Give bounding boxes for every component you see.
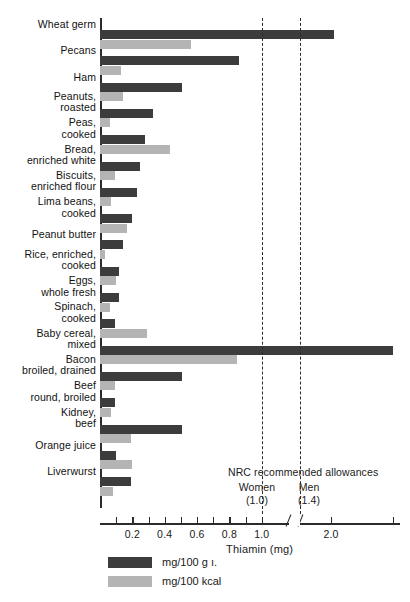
bar [100,303,110,312]
category-label: Bread,enriched white [4,144,96,167]
bar [100,434,131,443]
category-label: Beefround, broiled [4,380,96,403]
bar [100,145,170,154]
category-label: Pecans [4,45,96,57]
bar [100,197,111,206]
category-label: Lima beans,cooked [4,196,96,219]
x-axis-tick-label: 1.0 [254,528,269,540]
bar [100,92,123,101]
legend-label-mg-per-100g: mg/100 g ı. [162,556,217,568]
nrc-reference-line [300,18,301,514]
category-label: Baconbroiled, drained [4,354,96,377]
bar [100,329,147,338]
bar [100,355,237,364]
x-axis-tick-label: 0.2 [125,528,140,540]
category-label: Rice, enriched,cooked [4,249,96,272]
bar [100,162,140,171]
bar [100,118,110,127]
bar [100,40,191,49]
bar [100,171,115,180]
x-axis-tick-label: 0.6 [189,528,204,540]
bar [100,250,105,259]
x-axis-tick [393,517,394,523]
legend-item: mg/100 kcal [108,575,221,587]
category-label: Baby cereal,mixed [4,328,96,351]
thiamin-bar-chart: Wheat germPecansHamPeanuts,roastedPeas,c… [0,0,410,602]
bar [100,319,115,328]
bar [100,276,116,285]
x-axis-title: Thiamin (mg) [226,543,293,555]
category-label: Kidney,beef [4,407,96,430]
x-axis-tick [149,517,150,523]
bar [100,56,239,65]
category-label: Peas,cooked [4,117,96,140]
category-label: Spinach,cooked [4,301,96,324]
bar [100,135,145,144]
x-axis-tick [132,517,133,523]
x-axis-tick [116,517,117,523]
bar [100,425,182,434]
x-axis-tick [331,517,332,523]
x-axis-tick [246,517,247,523]
bar [100,83,182,92]
x-axis-tick [213,517,214,523]
bar [100,66,121,75]
x-axis-tick [165,517,166,523]
category-label: Wheat germ [4,19,96,31]
bar [100,408,111,417]
bar [100,451,116,460]
axis-break-gap [289,521,300,526]
x-axis-tick [181,517,182,523]
category-label: Biscuits,enriched flour [4,170,96,193]
bar [100,240,123,249]
nrc-men-label: Men [288,481,330,493]
nrc-heading: NRC recommended allowances [228,466,388,478]
bar [100,372,182,381]
legend-swatch-mg-per-100g [108,557,152,568]
bar [100,293,119,302]
x-axis-line [100,523,400,525]
bar [100,460,132,469]
category-label: Liverwurst [4,466,96,478]
bar [100,224,127,233]
bar [100,109,153,118]
category-label: Eggs,whole fresh [4,275,96,298]
x-axis-tick [262,517,263,523]
x-axis-tick-label: 0.4 [157,528,172,540]
bar [100,267,119,276]
x-axis-tick [229,517,230,523]
x-axis-tick-label: 2.0 [323,528,338,540]
legend-item: mg/100 g ı. [108,556,221,568]
bar [100,398,115,407]
category-label: Peanut butter [4,229,96,241]
nrc-men-value: (1.4) [288,494,330,506]
legend: mg/100 g ı. mg/100 kcal [108,556,221,594]
plot-area [100,18,405,508]
category-label: Orange juice [4,440,96,452]
category-labels: Wheat germPecansHamPeanuts,roastedPeas,c… [0,0,96,505]
category-label: Ham [4,72,96,84]
bar [100,214,132,223]
bar [100,477,131,486]
nrc-women-label: Women [232,481,282,493]
bar [100,346,393,355]
nrc-reference-line [262,18,263,514]
category-label: Peanuts,roasted [4,91,96,114]
nrc-women-value: (1.0) [232,494,282,506]
x-axis-tick [197,517,198,523]
x-axis-tick-label: 0.8 [222,528,237,540]
bar [100,487,113,496]
legend-label-mg-per-100kcal: mg/100 kcal [162,575,221,587]
bar [100,188,137,197]
legend-swatch-mg-per-100kcal [108,576,152,587]
bar [100,381,115,390]
